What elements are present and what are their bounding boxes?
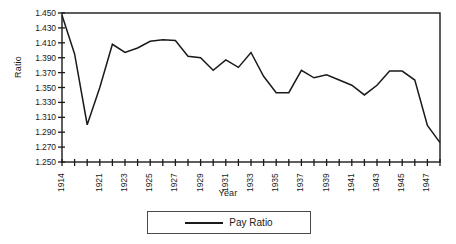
chart-legend: Pay Ratio xyxy=(147,211,311,234)
legend-label-pay-ratio: Pay Ratio xyxy=(229,218,272,228)
legend-line-swatch xyxy=(185,222,223,224)
plot-area xyxy=(0,0,456,244)
x-axis-title: Year xyxy=(0,188,456,198)
pay-ratio-line-chart: Ratio 1.4501.4301.4101.3901.3701.3501.33… xyxy=(0,0,456,244)
data-line-pay-ratio xyxy=(62,15,440,142)
plot-frame xyxy=(62,13,440,162)
